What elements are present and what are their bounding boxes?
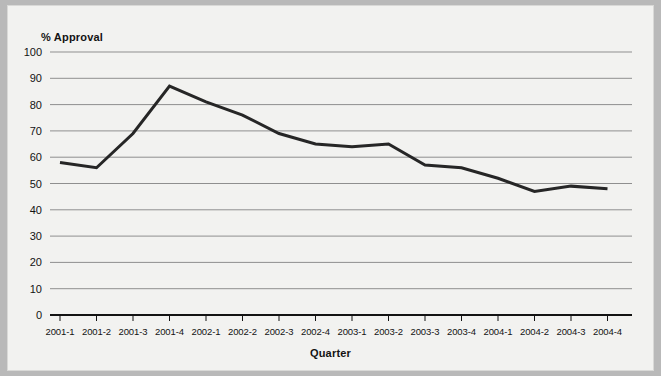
x-axis-title: Quarter [8, 347, 653, 359]
y-axis-tick-label: 20 [8, 256, 42, 268]
x-axis-tick-label: 2001-2 [82, 326, 111, 337]
y-axis-tick-label: 70 [8, 125, 42, 137]
x-axis-tick-label: 2003-2 [374, 326, 403, 337]
x-axis-tick-label: 2001-3 [119, 326, 148, 337]
chart-card: % Approval 0102030405060708090100 2001-1… [8, 6, 653, 370]
x-axis-tick-label: 2002-4 [301, 326, 330, 337]
y-axis-tick-label: 30 [8, 230, 42, 242]
x-axis-tick-label: 2002-3 [265, 326, 294, 337]
x-axis-tick-label: 2003-4 [447, 326, 476, 337]
y-axis-tick-label: 90 [8, 72, 42, 84]
y-axis-tick-label: 10 [8, 283, 42, 295]
y-axis-tick-label: 100 [8, 46, 42, 58]
x-axis-tick-label: 2001-1 [46, 326, 75, 337]
y-axis-tick-label: 60 [8, 151, 42, 163]
gridlines [50, 52, 632, 289]
y-axis-tick-label: 80 [8, 99, 42, 111]
x-axis-tick-label: 2003-3 [411, 326, 440, 337]
chart-canvas [8, 6, 653, 370]
approval-line-series [60, 86, 608, 191]
x-axis-tick-label: 2004-3 [557, 326, 586, 337]
y-axis-tick-label: 50 [8, 178, 42, 190]
x-axis-tick-label: 2003-1 [338, 326, 367, 337]
y-axis-tick-label: 40 [8, 204, 42, 216]
x-axis-tick-label: 2004-1 [484, 326, 513, 337]
x-axis-tick-label: 2002-2 [228, 326, 257, 337]
x-axis-tick-label: 2001-4 [155, 326, 184, 337]
x-axis-tick-label: 2002-1 [192, 326, 221, 337]
plot-area: % Approval 0102030405060708090100 2001-1… [8, 6, 653, 370]
x-axis-tick-label: 2004-2 [520, 326, 549, 337]
x-axis-tick-label: 2004-4 [593, 326, 622, 337]
y-axis-tick-label: 0 [8, 309, 42, 321]
